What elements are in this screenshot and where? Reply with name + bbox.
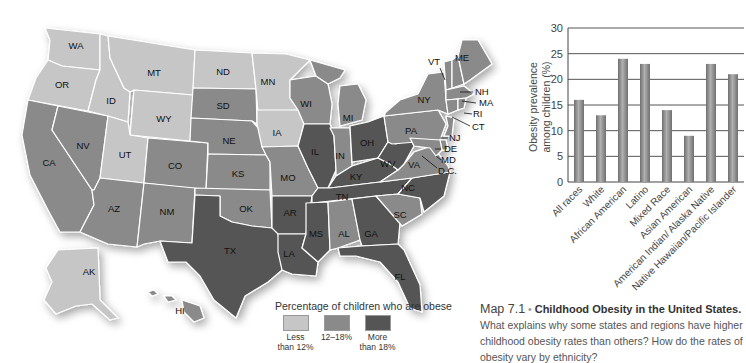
svg-text:TX: TX: [224, 245, 237, 256]
y-tick-label: 30: [551, 22, 563, 34]
svg-text:DE: DE: [444, 143, 457, 154]
svg-text:AR: AR: [283, 207, 296, 218]
svg-text:FL: FL: [394, 271, 405, 282]
svg-text:MS: MS: [309, 228, 323, 239]
svg-text:CT: CT: [472, 121, 485, 132]
y-tick-label: 5: [557, 150, 563, 162]
svg-text:TN: TN: [336, 191, 349, 202]
svg-text:IN: IN: [335, 150, 345, 161]
svg-text:MT: MT: [147, 67, 161, 78]
y-tick-label: 15: [551, 99, 563, 111]
bar: [574, 100, 584, 182]
y-axis-label-line2: among children (%): [540, 61, 552, 152]
caption-text: What explains why some states and region…: [480, 319, 743, 363]
svg-text:IL: IL: [311, 146, 319, 157]
svg-text:MI: MI: [343, 112, 354, 123]
svg-text:RI: RI: [473, 108, 483, 119]
legend-title: Percentage of children who are obese: [275, 300, 475, 312]
svg-text:MN: MN: [261, 76, 276, 87]
y-tick-label: 0: [557, 176, 563, 188]
svg-text:HI: HI: [175, 305, 185, 316]
x-axis-categories: All racesWhiteAfrican AmericanLatinoMixe…: [550, 183, 739, 292]
svg-text:ND: ND: [216, 66, 230, 77]
svg-text:OR: OR: [55, 79, 69, 90]
caption-number: Map 7.1: [480, 302, 525, 316]
svg-text:AZ: AZ: [108, 203, 120, 214]
caption-bullet: •: [528, 303, 532, 315]
svg-text:NE: NE: [222, 135, 235, 146]
svg-text:WV: WV: [380, 158, 396, 169]
bar: [684, 136, 694, 182]
svg-text:WA: WA: [69, 40, 85, 51]
bar: [640, 64, 650, 182]
svg-text:KY: KY: [350, 171, 363, 182]
svg-text:KS: KS: [232, 168, 245, 179]
svg-text:UT: UT: [119, 149, 132, 160]
svg-text:NV: NV: [76, 140, 90, 151]
svg-text:NC: NC: [401, 182, 415, 193]
svg-text:NJ: NJ: [449, 132, 461, 143]
state-AK: [44, 248, 118, 320]
y-tick-label: 25: [551, 48, 563, 60]
legend-item-low: Less than 12%: [275, 315, 316, 352]
svg-text:MD: MD: [441, 154, 456, 165]
chart-gridlines: [568, 28, 744, 182]
svg-text:NM: NM: [160, 206, 175, 217]
svg-text:NH: NH: [475, 86, 489, 97]
svg-text:LA: LA: [283, 248, 295, 259]
svg-text:IA: IA: [273, 127, 283, 138]
y-axis-label: Obesity prevalence: [527, 62, 539, 152]
svg-text:AL: AL: [338, 228, 350, 239]
svg-text:GA: GA: [364, 228, 378, 239]
svg-text:NY: NY: [417, 94, 431, 105]
svg-text:VT: VT: [428, 56, 440, 67]
state-NY: [384, 72, 448, 116]
y-axis-ticks: 051015202530: [551, 22, 563, 188]
svg-text:MO: MO: [280, 172, 295, 183]
svg-text:D.C.: D.C.: [438, 165, 457, 176]
svg-text:SC: SC: [393, 209, 406, 220]
caption-title: Childhood Obesity in the United States.: [535, 303, 742, 315]
svg-text:OK: OK: [239, 203, 253, 214]
legend-item-mid: 12–18%: [316, 315, 357, 352]
svg-text:SD: SD: [216, 100, 229, 111]
state-VT: [444, 60, 452, 90]
bar: [706, 64, 716, 182]
legend-item-high: More than 18%: [357, 315, 398, 352]
bar: [618, 59, 628, 182]
bar: [662, 110, 672, 182]
bar: [596, 115, 606, 182]
svg-text:ID: ID: [106, 95, 116, 106]
svg-text:VA: VA: [408, 159, 421, 170]
legend-swatch-high: [365, 315, 391, 331]
svg-text:CA: CA: [42, 157, 56, 168]
svg-text:OH: OH: [360, 137, 374, 148]
legend-swatch-low: [283, 315, 309, 331]
y-tick-label: 20: [551, 73, 563, 85]
legend-swatch-mid: [324, 315, 350, 331]
obesity-by-ethnicity-bar-chart: 051015202530 All racesWhiteAfrican Ameri…: [520, 0, 746, 300]
state-CT: [446, 99, 458, 114]
svg-text:CO: CO: [168, 160, 182, 171]
map-caption: Map 7.1 • Childhood Obesity in the Unite…: [480, 301, 746, 363]
svg-text:MA: MA: [479, 97, 494, 108]
x-category-label: All races: [550, 184, 585, 219]
y-tick-label: 10: [551, 125, 563, 137]
svg-text:WY: WY: [156, 113, 172, 124]
svg-text:PA: PA: [405, 125, 418, 136]
svg-text:AK: AK: [83, 266, 96, 277]
state-RI: [458, 98, 466, 110]
bar: [728, 74, 738, 182]
map-legend: Percentage of children who are obese Les…: [275, 300, 475, 352]
svg-text:WI: WI: [300, 98, 312, 109]
chart-bars: [574, 59, 738, 182]
svg-text:ME: ME: [455, 52, 469, 63]
